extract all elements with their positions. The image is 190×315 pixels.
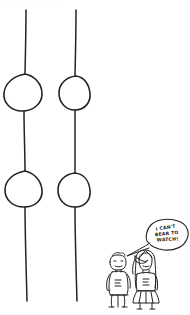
right-upper-knot [59,76,90,110]
speech-line-3: WATCH! [151,236,185,244]
right-strand-segment-bottom [75,207,77,301]
left-strand-segment-middle [24,111,25,171]
man-legs [111,295,125,307]
man-shirt-detail [115,280,121,286]
speech-bubble-tail [127,243,150,256]
left-strand-segment-top [25,10,26,74]
man-mouth [115,266,122,267]
man-head [110,255,126,270]
woman-skirt-pleats [139,292,153,303]
left-lower-knot [5,171,42,207]
woman-dress-detail [143,279,149,285]
woman-hand-over-eyes [135,256,148,263]
woman-mouth [143,266,149,267]
woman-legs [140,303,152,309]
left-strand [4,10,42,301]
right-strand-segment-top [75,10,76,76]
left-upper-knot [4,74,42,111]
man-figure [107,253,131,307]
woman-figure [133,250,159,309]
right-strand [58,10,90,301]
right-lower-knot [58,173,90,207]
left-strand-segment-bottom [25,207,27,301]
cartoon-canvas: . . . . . . . . . . . [0,0,190,315]
drawing-svg [0,0,190,315]
